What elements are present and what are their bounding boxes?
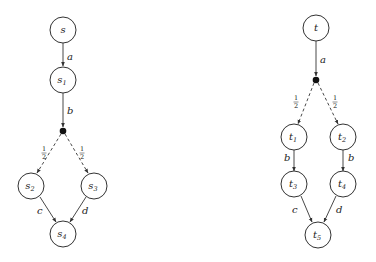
right-diagram: a 1 2 1 2 b b c d t t1 [281, 15, 356, 248]
node-t: t [303, 15, 329, 41]
edge-t4-t5 [324, 196, 336, 222]
edge-label-b-left: b [284, 152, 290, 163]
edge-label-c: c [37, 205, 43, 216]
edge-label-a-right: a [320, 54, 326, 65]
node-t2: t2 [330, 124, 356, 150]
node-t4: t4 [330, 171, 356, 197]
node-s: s [50, 17, 76, 43]
svg-text:1: 1 [294, 94, 298, 102]
distribution-dot [60, 128, 67, 135]
prob-label-right-t1: 1 2 [294, 94, 299, 110]
svg-text:2: 2 [333, 102, 337, 110]
edge-label-d: d [82, 205, 88, 216]
svg-text:1: 1 [333, 94, 337, 102]
node-t1: t1 [281, 124, 307, 150]
node-s2: s2 [18, 173, 44, 199]
edge-t3-t5 [301, 196, 312, 222]
edge-dist-t1 [298, 83, 314, 124]
node-t5: t5 [305, 222, 331, 248]
edge-dist-s3 [65, 134, 88, 173]
edge-label-c-right: c [292, 204, 298, 215]
edge-label-b: b [67, 105, 73, 116]
edge-label-a: a [67, 51, 73, 62]
node-s3: s3 [81, 173, 107, 199]
prob-label-right-t2: 1 2 [333, 94, 338, 110]
edge-label-b-right: b [348, 152, 354, 163]
edge-dist-s2 [37, 134, 61, 173]
node-s4: s4 [50, 221, 76, 247]
node-s1: s1 [50, 67, 76, 93]
svg-text:2: 2 [294, 102, 298, 110]
prob-label-left-s2: 1 2 [42, 145, 47, 161]
svg-text:1: 1 [80, 145, 84, 153]
edge-label-d-right: d [336, 204, 342, 215]
prob-label-left-s3: 1 2 [80, 145, 85, 161]
left-diagram: a b 1 2 1 2 c d s s1 s2 [18, 17, 107, 247]
distribution-dot-right [313, 77, 320, 84]
svg-text:2: 2 [80, 153, 84, 161]
svg-text:1: 1 [42, 145, 46, 153]
diagram-canvas: a b 1 2 1 2 c d s s1 s2 [0, 0, 376, 262]
svg-text:2: 2 [42, 153, 46, 161]
svg-text:s: s [60, 24, 65, 35]
node-t3: t3 [281, 171, 307, 197]
